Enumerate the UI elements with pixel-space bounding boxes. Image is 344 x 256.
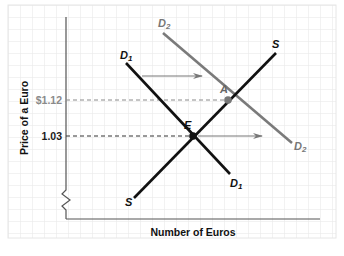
point-e-marker xyxy=(189,132,197,140)
point-a-marker xyxy=(224,96,232,104)
s-bottom-label: S xyxy=(125,196,133,208)
point-a-label: A xyxy=(219,83,228,95)
supply-demand-diagram: A E D1 D1 D2 D2 S S $1.12 1.03 Price of … xyxy=(0,0,344,256)
point-e-label: E xyxy=(184,119,192,131)
y-axis-title: Price of a Euro xyxy=(18,81,30,155)
y-tick-low: 1.03 xyxy=(42,130,63,142)
x-axis-title: Number of Euros xyxy=(150,226,235,238)
s-top-label: S xyxy=(272,38,280,50)
y-tick-high: $1.12 xyxy=(36,94,62,106)
